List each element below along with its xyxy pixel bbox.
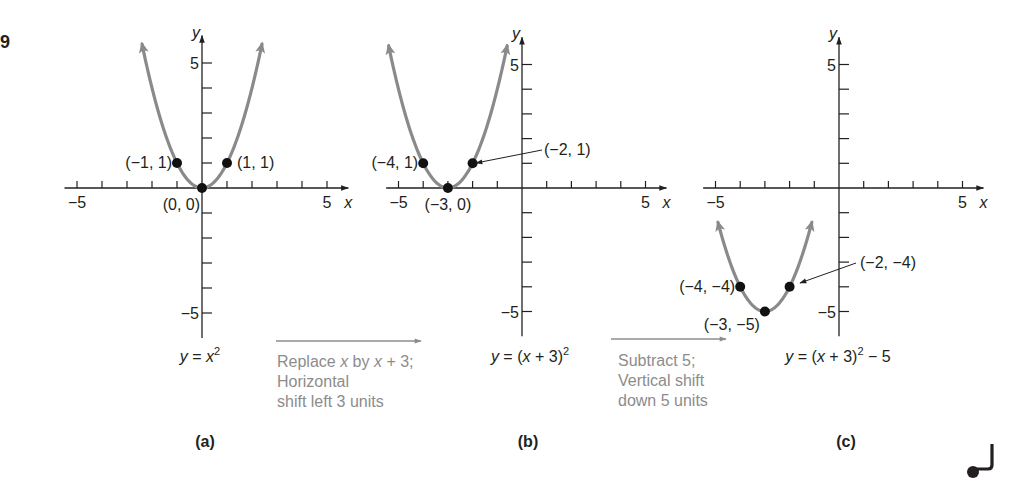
point-label: (−2, −4) xyxy=(860,254,916,271)
point-label: (−2, 1) xyxy=(544,141,591,158)
parabola-left-branch xyxy=(718,222,765,311)
data-point xyxy=(760,307,770,317)
transform-2-line-3: down 5 units xyxy=(618,392,708,409)
figure-parabola-transformations: 9 −555−5xy(−1, 1)(0, 0)(1, 1)y = x2−555−… xyxy=(0,0,1031,497)
equation-label: y = (x + 3)2 xyxy=(490,345,569,365)
y-axis-label: y xyxy=(511,25,521,42)
y-tick-label-min: −5 xyxy=(818,304,836,321)
point-label: (0, 0) xyxy=(163,196,200,213)
y-axis-label: y xyxy=(828,25,838,42)
data-point xyxy=(172,158,182,168)
panels: −555−5xy(−1, 1)(0, 0)(1, 1)y = x2−555−5x… xyxy=(65,24,989,366)
equation-label: y = x2 xyxy=(179,345,220,365)
point-label: (−4, 1) xyxy=(372,154,419,171)
x-tick-label-max: 5 xyxy=(323,194,332,211)
data-point xyxy=(197,183,207,193)
point-label: (−1, 1) xyxy=(125,154,172,171)
parabola-right-branch xyxy=(765,222,812,311)
y-tick-label-max: 5 xyxy=(827,57,836,74)
point-label-pointer xyxy=(800,263,856,283)
x-tick-label-min: −5 xyxy=(706,194,724,211)
point-label: (−4, −4) xyxy=(679,278,735,295)
transform-1-line-1: Replace x by x + 3; xyxy=(277,353,414,370)
figure-number-fragment: 9 xyxy=(0,32,10,52)
data-point xyxy=(222,158,232,168)
y-tick-label-max: 5 xyxy=(510,57,519,74)
data-point xyxy=(443,183,453,193)
x-tick-label-max: 5 xyxy=(958,194,967,211)
transform-2-line-1: Subtract 5; xyxy=(618,352,695,369)
y-tick-label-min: −5 xyxy=(181,305,199,322)
y-tick-label-min: −5 xyxy=(501,304,519,321)
parabola-right-branch xyxy=(448,46,507,188)
x-tick-label-max: 5 xyxy=(641,194,650,211)
transformation-2: Subtract 5; Vertical shift down 5 units xyxy=(611,339,726,409)
panel-label-a: (a) xyxy=(195,433,215,450)
point-label: (−3, −5) xyxy=(704,316,760,333)
y-tick-label-max: 5 xyxy=(190,55,199,72)
equation-label: y = (x + 3)2 − 5 xyxy=(784,345,890,365)
panel-c: −555−5xy(−4, −4)(−3, −5)(−2, −4)y = (x +… xyxy=(679,25,988,365)
data-point xyxy=(735,282,745,292)
point-label: (1, 1) xyxy=(237,154,274,171)
x-tick-label-min: −5 xyxy=(389,194,407,211)
x-axis-label: x xyxy=(343,194,353,211)
transform-1-line-2: Horizontal xyxy=(277,373,349,390)
transformation-1: Replace x by x + 3; Horizontal shift lef… xyxy=(276,341,421,410)
transform-2-line-2: Vertical shift xyxy=(618,372,705,389)
transform-1-line-3: shift left 3 units xyxy=(277,393,384,410)
point-label-pointer xyxy=(476,150,542,163)
panel-label-c: (c) xyxy=(836,433,856,450)
end-mark-icon xyxy=(967,444,992,478)
panel-a: −555−5xy(−1, 1)(0, 0)(1, 1)y = x2 xyxy=(65,24,354,366)
point-label: (−3, 0) xyxy=(425,196,472,213)
panel-b: −555−5xy(−4, 1)(−3, 0)(−2, 1)y = (x + 3)… xyxy=(372,25,672,365)
data-point xyxy=(785,282,795,292)
y-axis-label: y xyxy=(191,24,201,41)
x-axis-label: x xyxy=(661,194,671,211)
x-tick-label-min: −5 xyxy=(68,194,86,211)
panel-label-b: (b) xyxy=(518,433,538,450)
data-point xyxy=(418,158,428,168)
x-axis-label: x xyxy=(978,194,988,211)
